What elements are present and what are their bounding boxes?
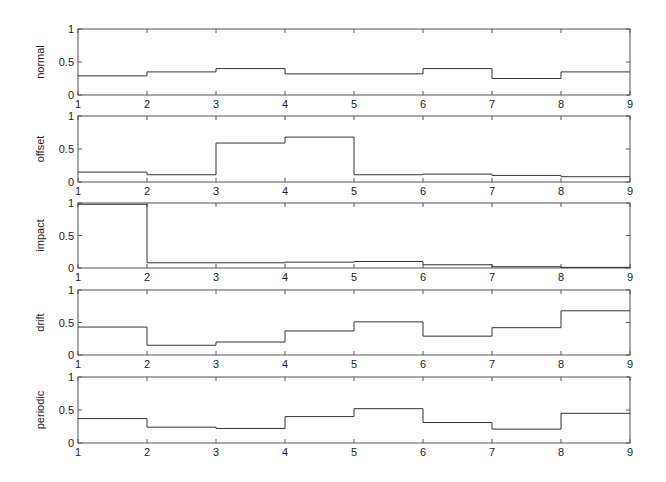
x-tick-label: 1 <box>75 271 81 283</box>
x-tick-label: 3 <box>213 358 219 370</box>
x-tick-label: 5 <box>351 98 357 110</box>
stairs-series <box>78 409 630 429</box>
x-tick-label: 5 <box>351 185 357 197</box>
x-tick-label: 1 <box>75 98 81 110</box>
x-tick-label: 1 <box>75 358 81 370</box>
x-tick-label: 6 <box>420 98 426 110</box>
x-tick-label: 5 <box>351 271 357 283</box>
x-tick-label: 6 <box>420 271 426 283</box>
x-tick-label: 6 <box>420 185 426 197</box>
subplot-normal: 12345678900.51normal <box>34 23 633 110</box>
x-tick-label: 4 <box>282 185 288 197</box>
x-tick-label: 7 <box>489 185 495 197</box>
x-tick-label: 5 <box>351 446 357 458</box>
y-tick-label: 0.5 <box>59 317 74 329</box>
y-tick-label: 0.5 <box>59 143 74 155</box>
x-tick-label: 7 <box>489 271 495 283</box>
x-tick-label: 5 <box>351 358 357 370</box>
y-tick-label: 1 <box>68 197 74 209</box>
x-tick-label: 9 <box>627 185 633 197</box>
subplot-offset: 12345678900.51offset <box>34 110 633 197</box>
x-tick-label: 4 <box>282 98 288 110</box>
y-tick-label: 0 <box>68 176 74 188</box>
y-tick-label: 1 <box>68 284 74 296</box>
y-axis-label: normal <box>34 45 46 79</box>
stairs-series <box>78 69 630 79</box>
y-tick-label: 0.5 <box>59 404 74 416</box>
y-tick-label: 0.5 <box>59 230 74 242</box>
y-tick-label: 1 <box>68 110 74 122</box>
x-tick-label: 7 <box>489 446 495 458</box>
x-tick-label: 9 <box>627 358 633 370</box>
stairs-series <box>78 311 630 345</box>
x-tick-label: 6 <box>420 446 426 458</box>
y-tick-label: 0 <box>68 437 74 449</box>
y-axis-label: drift <box>34 313 46 331</box>
y-tick-label: 0 <box>68 89 74 101</box>
axes-box <box>78 203 630 268</box>
y-axis-label: periodic <box>34 390 46 429</box>
subplot-periodic: 12345678900.51periodic <box>34 371 633 458</box>
stairs-series <box>78 137 630 177</box>
subplot-drift: 12345678900.51drift <box>34 284 633 370</box>
x-tick-label: 8 <box>558 185 564 197</box>
x-tick-label: 9 <box>627 446 633 458</box>
y-tick-label: 1 <box>68 371 74 383</box>
x-tick-label: 8 <box>558 446 564 458</box>
x-tick-label: 4 <box>282 358 288 370</box>
subplot-impact: 12345678900.51impact <box>34 197 633 283</box>
x-tick-label: 8 <box>558 271 564 283</box>
x-tick-label: 2 <box>144 185 150 197</box>
y-axis-label: offset <box>34 136 46 163</box>
axes-box <box>78 29 630 95</box>
y-tick-label: 0.5 <box>59 56 74 68</box>
figure-canvas: 12345678900.51normal 12345678900.51offse… <box>0 0 666 482</box>
x-tick-label: 7 <box>489 98 495 110</box>
y-tick-label: 0 <box>68 262 74 274</box>
x-tick-label: 4 <box>282 446 288 458</box>
x-tick-label: 3 <box>213 98 219 110</box>
x-tick-label: 2 <box>144 358 150 370</box>
x-tick-label: 2 <box>144 98 150 110</box>
x-tick-label: 3 <box>213 271 219 283</box>
x-tick-label: 2 <box>144 271 150 283</box>
y-tick-label: 0 <box>68 349 74 361</box>
x-tick-label: 8 <box>558 358 564 370</box>
x-tick-label: 9 <box>627 271 633 283</box>
x-tick-label: 3 <box>213 446 219 458</box>
y-axis-label: impact <box>34 219 46 251</box>
stairs-series <box>78 204 630 267</box>
x-tick-label: 6 <box>420 358 426 370</box>
stairs-figure: 12345678900.51normal 12345678900.51offse… <box>0 0 666 482</box>
x-tick-label: 1 <box>75 185 81 197</box>
x-tick-label: 9 <box>627 98 633 110</box>
x-tick-label: 3 <box>213 185 219 197</box>
x-tick-label: 4 <box>282 271 288 283</box>
x-tick-label: 1 <box>75 446 81 458</box>
x-tick-label: 7 <box>489 358 495 370</box>
y-tick-label: 1 <box>68 23 74 35</box>
x-tick-label: 2 <box>144 446 150 458</box>
x-tick-label: 8 <box>558 98 564 110</box>
